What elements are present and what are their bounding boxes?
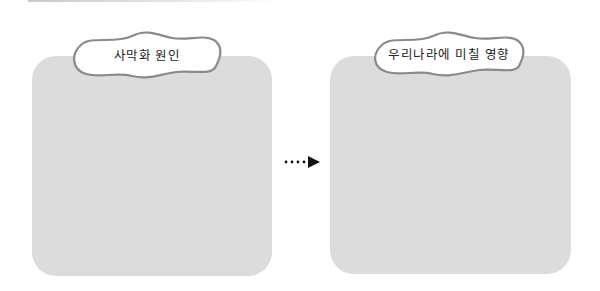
cause-title: 사막화 원인 (68, 26, 226, 82)
impact-title: 우리나라에 미칠 영향 (369, 26, 529, 80)
cause-answer-box[interactable] (32, 56, 272, 276)
dotted-arrow-icon (282, 155, 322, 169)
impact-answer-box[interactable] (330, 56, 571, 274)
impact-title-cloud: 우리나라에 미칠 영향 (369, 26, 529, 80)
top-divider-line (28, 0, 280, 2)
cause-title-cloud: 사막화 원인 (68, 26, 226, 82)
